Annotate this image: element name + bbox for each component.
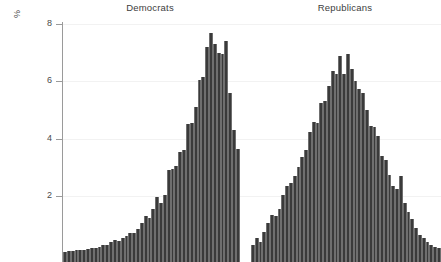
histogram-figure: Democrats Republicans % 2468 [0, 0, 441, 262]
histogram-bar [236, 149, 240, 262]
y-tick-label-8: 8 [30, 18, 52, 28]
panel-title-republicans: Republicans [250, 2, 440, 13]
histogram-bars-democrats [63, 22, 240, 262]
plot-panel-democrats [63, 22, 240, 262]
y-tick-label-4: 4 [30, 133, 52, 143]
plot-panel-republicans [251, 22, 441, 262]
histogram-bars-republicans [251, 22, 441, 262]
y-tick-label-6: 6 [30, 75, 52, 85]
y-tick-label-2: 2 [30, 190, 52, 200]
panel-title-democrats: Democrats [60, 2, 240, 13]
histogram-bar [437, 248, 441, 262]
y-axis-label: % [12, 10, 22, 18]
